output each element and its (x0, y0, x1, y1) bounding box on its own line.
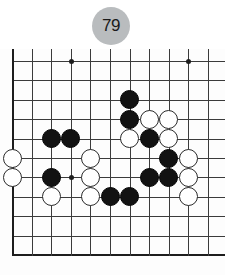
black-stone (159, 149, 178, 168)
white-stone (81, 168, 100, 187)
white-stone (3, 149, 22, 168)
white-stone (179, 187, 198, 206)
black-stone (42, 129, 61, 148)
white-stone (3, 168, 22, 187)
white-stone (140, 110, 159, 129)
white-stone (81, 187, 100, 206)
black-stone (159, 168, 178, 187)
black-stone (120, 187, 139, 206)
white-stone (159, 129, 178, 148)
white-stone (120, 129, 139, 148)
white-stone (42, 187, 61, 206)
black-stone (42, 168, 61, 187)
white-stone (159, 110, 178, 129)
black-stone (61, 129, 80, 148)
move-number-label: 79 (102, 16, 120, 36)
black-stone (140, 129, 159, 148)
black-stone (120, 110, 139, 129)
black-stone (120, 90, 139, 109)
go-board[interactable] (0, 49, 225, 275)
white-stone (179, 149, 198, 168)
white-stone (179, 168, 198, 187)
black-stone (101, 187, 120, 206)
black-stone (140, 168, 159, 187)
go-problem-figure: 79 (0, 0, 225, 275)
move-number-badge: 79 (92, 7, 130, 45)
board-stones (0, 49, 225, 275)
white-stone (81, 149, 100, 168)
